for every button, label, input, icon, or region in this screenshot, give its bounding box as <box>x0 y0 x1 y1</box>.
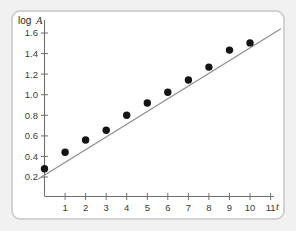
y-tick-label: 0.6 <box>25 130 38 141</box>
x-tick-label: 5 <box>145 202 150 213</box>
y-axis-title-variable: A <box>35 15 43 26</box>
x-tick-label: 9 <box>227 202 232 213</box>
y-tick-label: 1.2 <box>25 69 38 80</box>
figure-container: log A t 0.2 0.4 0.6 0.8 1.0 1.2 1.4 <box>0 0 296 231</box>
y-tick-label: 1.0 <box>25 89 38 100</box>
y-tick-label: 1.6 <box>25 27 38 38</box>
x-tick-label: 3 <box>104 202 109 213</box>
data-point <box>185 76 192 83</box>
data-point <box>103 127 110 134</box>
y-tick-label: 0.2 <box>25 171 38 182</box>
data-point <box>205 63 212 70</box>
data-point <box>226 46 233 53</box>
data-point <box>82 136 89 143</box>
x-axis-title-variable: t <box>276 201 280 212</box>
y-tick-labels: 0.2 0.4 0.6 0.8 1.0 1.2 1.4 1.6 <box>25 27 38 182</box>
x-tick-labels: 1 2 3 4 5 6 7 8 9 10 11 <box>62 202 275 213</box>
y-tick-label: 0.8 <box>25 110 38 121</box>
y-tick-label: 0.4 <box>25 151 38 162</box>
data-point <box>144 99 151 106</box>
x-tick-label: 11 <box>266 202 276 213</box>
x-tick-label: 10 <box>245 202 256 213</box>
data-point <box>123 112 130 119</box>
x-tick-label: 7 <box>186 202 191 213</box>
fitted-trend-line <box>38 29 281 179</box>
data-point <box>61 149 68 156</box>
chart-plot: log A t 0.2 0.4 0.6 0.8 1.0 1.2 1.4 <box>0 0 296 231</box>
x-tick-label: 2 <box>83 202 88 213</box>
data-point <box>246 39 253 46</box>
x-tick-label: 8 <box>206 202 211 213</box>
x-tick-label: 1 <box>62 202 67 213</box>
data-point-markers <box>41 39 254 172</box>
x-tick-label: 6 <box>165 202 170 213</box>
y-tick-label: 1.4 <box>25 48 38 59</box>
y-axis-title: log <box>18 15 31 26</box>
data-point <box>164 89 171 96</box>
data-point <box>41 165 48 172</box>
x-tick-label: 4 <box>124 202 129 213</box>
